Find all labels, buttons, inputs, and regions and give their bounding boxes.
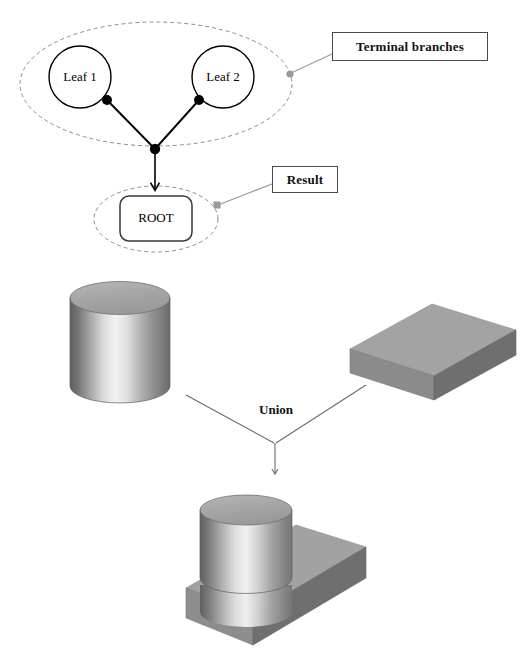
terminal-branches-callout: Terminal branches (332, 32, 488, 61)
union-result-solid (186, 495, 366, 645)
result-anchor-dot (214, 202, 221, 209)
result-leader-line (218, 184, 272, 205)
branch-edge-leaf2 (155, 100, 199, 149)
terminal-branches-leader-line (291, 54, 332, 73)
branch-edge-leaf1 (107, 100, 155, 149)
terminal-branches-anchor-dot (286, 70, 293, 77)
csg-union-figure: Leaf 1 Leaf 2 ROOT Terminal branches Res… (0, 0, 532, 667)
leaf2-connector-dot (194, 95, 204, 105)
root-label: ROOT (125, 210, 187, 226)
branch-junction-dot (150, 144, 160, 154)
leaf1-connector-dot (102, 95, 112, 105)
block-solid (350, 304, 516, 400)
terminal-branches-callout-label: Terminal branches (356, 39, 464, 55)
figure-vector-layer (0, 0, 532, 667)
result-callout-label: Result (287, 172, 324, 188)
leaf2-label: Leaf 2 (198, 69, 248, 85)
leaf1-label: Leaf 1 (55, 69, 105, 85)
union-operation-label: Union (248, 402, 304, 418)
cylinder-solid (70, 282, 170, 403)
result-callout: Result (272, 166, 338, 193)
